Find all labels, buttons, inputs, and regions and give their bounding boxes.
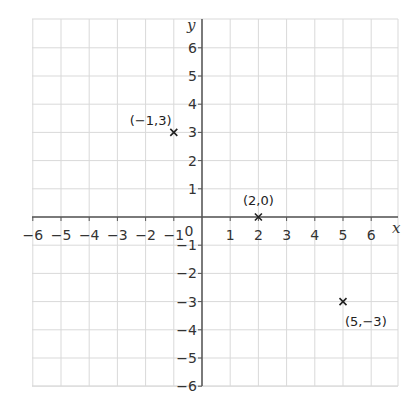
x-tick-label: −3 [107, 227, 128, 243]
y-tick-label: 6 [188, 40, 197, 56]
y-tick-label: 5 [188, 68, 197, 84]
point-label: (2,0) [243, 193, 274, 208]
point-label: (5,−3) [345, 314, 387, 329]
x-tick-label: 4 [310, 227, 319, 243]
y-tick-label: −1 [176, 237, 197, 253]
point-label: (−1,3) [130, 113, 172, 128]
y-tick-label: −4 [176, 322, 197, 338]
x-tick-label: 2 [254, 227, 263, 243]
x-tick-label: 1 [226, 227, 235, 243]
y-tick-label: 3 [188, 124, 197, 140]
x-tick-label: 6 [367, 227, 376, 243]
x-tick-label: 5 [339, 227, 348, 243]
x-tick-label: 3 [282, 227, 291, 243]
coordinate-plane: xy0−6−5−4−3−2−1123456654321−1−2−3−4−5−6(… [0, 0, 413, 408]
y-tick-label: 2 [188, 153, 197, 169]
x-tick-label: −5 [51, 227, 72, 243]
y-tick-label: −3 [176, 294, 197, 310]
x-tick-label: −4 [79, 227, 100, 243]
y-tick-label: −2 [176, 265, 197, 281]
y-tick-label: −6 [176, 378, 197, 394]
x-axis-label: x [392, 219, 401, 237]
x-tick-label: −2 [135, 227, 156, 243]
y-axis-label: y [186, 16, 196, 34]
x-tick-label: −6 [22, 227, 43, 243]
y-tick-label: −5 [176, 350, 197, 366]
y-tick-label: 4 [188, 96, 197, 112]
y-tick-label: 1 [188, 181, 197, 197]
